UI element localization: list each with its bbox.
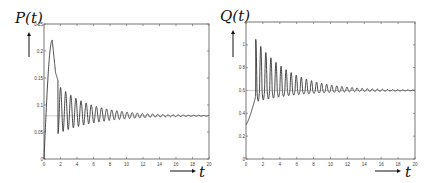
svg-text:18: 18: [190, 162, 196, 167]
svg-text:20: 20: [206, 162, 212, 167]
svg-text:1: 1: [242, 42, 245, 47]
y-axis-label-q: Q(t): [220, 7, 250, 25]
svg-text:12: 12: [140, 162, 146, 167]
svg-text:2: 2: [59, 162, 62, 167]
y-axis-label-p: P(t): [15, 9, 43, 27]
chart-p: 0246810121416182000.050.10.150.20.25 P(t…: [0, 0, 217, 183]
svg-text:0: 0: [40, 157, 43, 162]
svg-text:0: 0: [43, 162, 46, 167]
svg-text:4: 4: [279, 162, 282, 167]
svg-text:0.6: 0.6: [239, 88, 246, 93]
svg-text:6: 6: [295, 162, 298, 167]
svg-text:6: 6: [92, 162, 95, 167]
plot-q-of-t: 0246810121416182000.20.40.60.81: [217, 0, 434, 183]
svg-text:0.05: 0.05: [34, 130, 43, 135]
svg-text:8: 8: [109, 162, 112, 167]
svg-text:20: 20: [412, 162, 418, 167]
svg-text:10: 10: [124, 162, 130, 167]
svg-text:0.2: 0.2: [37, 49, 44, 54]
svg-text:14: 14: [157, 162, 163, 167]
svg-text:0.4: 0.4: [239, 111, 246, 116]
svg-text:16: 16: [379, 162, 385, 167]
svg-text:8: 8: [312, 162, 315, 167]
svg-text:14: 14: [362, 162, 368, 167]
svg-text:18: 18: [396, 162, 402, 167]
chart-q: 0246810121416182000.20.40.60.81 Q(t) t: [217, 0, 434, 183]
svg-text:12: 12: [345, 162, 351, 167]
svg-text:0.2: 0.2: [239, 134, 246, 139]
x-axis-label-t: t: [199, 163, 205, 181]
svg-text:10: 10: [328, 162, 334, 167]
svg-text:0.8: 0.8: [239, 65, 246, 70]
svg-text:4: 4: [76, 162, 79, 167]
svg-text:0.1: 0.1: [37, 103, 44, 108]
svg-text:16: 16: [173, 162, 179, 167]
x-axis-label-t: t: [405, 163, 411, 181]
plot-p-of-t: 0246810121416182000.050.10.150.20.25: [0, 0, 217, 183]
svg-text:2: 2: [262, 162, 265, 167]
svg-text:0.15: 0.15: [34, 76, 43, 81]
svg-text:0: 0: [245, 162, 248, 167]
svg-text:0: 0: [242, 157, 245, 162]
